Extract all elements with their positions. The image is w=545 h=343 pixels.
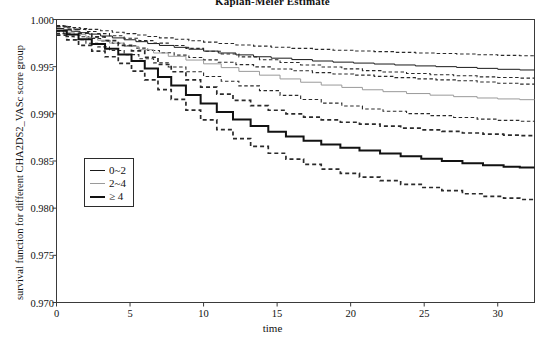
- legend-line-icon: [90, 166, 105, 174]
- kaplan-meier-figure: Kaplan-Meier Estimate survival function …: [0, 0, 545, 343]
- plot-area: [0, 0, 545, 343]
- series-2-4: [57, 26, 535, 121]
- confidence-band-upper: [57, 26, 535, 56]
- legend-item-label: 2~4: [109, 177, 126, 189]
- legend-item: 2~4: [90, 176, 126, 189]
- confidence-band-upper: [57, 27, 535, 136]
- survival-curve: [57, 30, 535, 100]
- legend-line-icon: [90, 192, 105, 200]
- legend-item-label: 0~2: [109, 164, 126, 176]
- legend-line-icon: [90, 179, 105, 187]
- legend-item: ≥ 4: [90, 189, 126, 202]
- chart-legend: 0~22~4≥ 4: [84, 158, 134, 207]
- survival-curve: [57, 31, 535, 168]
- x-axis-label: time: [0, 322, 545, 334]
- legend-item: 0~2: [90, 163, 126, 176]
- legend-item-label: ≥ 4: [109, 190, 123, 202]
